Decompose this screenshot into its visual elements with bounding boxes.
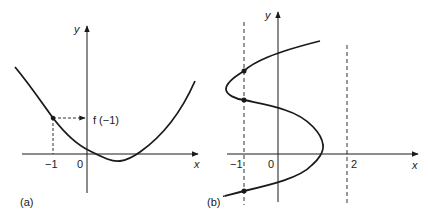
tick-minus-one-a: −1 bbox=[45, 158, 58, 170]
x-axis-label-b: x bbox=[411, 159, 418, 171]
point-minus-one-a bbox=[51, 116, 56, 121]
y-axis-label-b: y bbox=[264, 9, 272, 21]
y-axis-label-a: y bbox=[73, 23, 81, 35]
intersection-point-middle bbox=[242, 98, 247, 103]
panel-a: y x −1 0 f (−1) (a) bbox=[15, 23, 200, 208]
tick-zero-a: 0 bbox=[77, 158, 83, 170]
tick-zero-b: 0 bbox=[268, 158, 274, 170]
intersection-point-top bbox=[242, 69, 247, 74]
tick-two-b: 2 bbox=[351, 158, 357, 170]
caption-b: (b) bbox=[207, 196, 220, 208]
caption-a: (a) bbox=[20, 196, 33, 208]
figure: y x −1 0 f (−1) (a) y x −1 0 2 (b) bbox=[0, 0, 428, 219]
panel-b: y x −1 0 2 (b) bbox=[207, 9, 418, 208]
intersection-point-bottom bbox=[242, 189, 247, 194]
s-curve-b bbox=[224, 41, 323, 196]
f-of-minus-one-label: f (−1) bbox=[93, 114, 119, 126]
tick-minus-one-b: −1 bbox=[230, 158, 243, 170]
x-axis-label-a: x bbox=[193, 158, 200, 170]
